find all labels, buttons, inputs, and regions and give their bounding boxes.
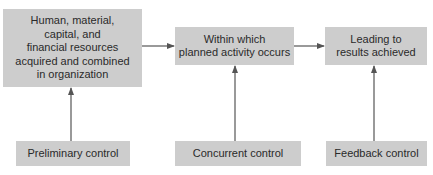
preliminary-control-box: Preliminary control	[16, 141, 130, 166]
concurrent-control-label: Concurrent control	[193, 147, 284, 161]
resources-line: Human, material,	[15, 14, 129, 28]
activity-line: planned activity occurs	[179, 46, 290, 60]
feedback-control-label: Feedback control	[334, 147, 418, 161]
results-line: Leading to	[336, 33, 416, 47]
concurrent-control-box: Concurrent control	[175, 141, 301, 166]
activity-box: Within which planned activity occurs	[175, 27, 294, 65]
results-box: Leading to results achieved	[325, 27, 427, 65]
resources-line: acquired and combined	[15, 55, 129, 69]
preliminary-control-label: Preliminary control	[27, 147, 118, 161]
results-line: results achieved	[336, 46, 416, 60]
resources-line: in organization	[15, 68, 129, 82]
activity-line: Within which	[179, 33, 290, 47]
resources-line: financial resources	[15, 41, 129, 55]
resources-box: Human, material, capital, and financial …	[3, 9, 142, 87]
feedback-control-box: Feedback control	[326, 141, 427, 166]
resources-line: capital, and	[15, 28, 129, 42]
